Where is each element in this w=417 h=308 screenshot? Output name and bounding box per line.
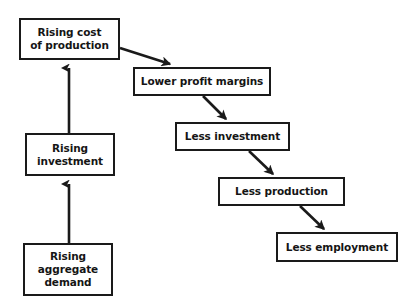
node-label: Rising aggregate demand [35,250,101,289]
edge-cost-to-margins [120,48,170,64]
node-less-employment[interactable]: Less employment [276,232,398,262]
edge-less-investment-to-production [249,151,273,174]
node-less-investment[interactable]: Less investment [175,122,290,151]
flowchart-canvas: Rising cost of production Rising investm… [0,0,417,308]
edge-less-production-to-employment [300,206,324,229]
node-label: Rising cost of production [27,26,112,52]
node-label: Less investment [182,130,283,143]
node-label: Less employment [283,241,391,254]
edge-margins-to-less-investment [203,96,226,119]
node-label: Less production [232,185,331,198]
node-label: Lower profit margins [138,75,266,88]
node-rising-aggregate-demand[interactable]: Rising aggregate demand [23,243,113,296]
node-label: Rising investment [34,142,106,168]
node-lower-profit-margins[interactable]: Lower profit margins [133,67,271,96]
node-rising-cost-of-production[interactable]: Rising cost of production [19,18,120,60]
node-rising-investment[interactable]: Rising investment [25,133,115,176]
node-less-production[interactable]: Less production [218,177,345,206]
